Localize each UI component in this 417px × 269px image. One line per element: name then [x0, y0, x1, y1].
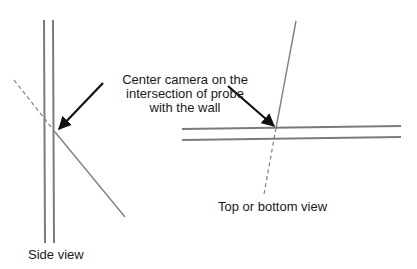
side-view-group: [14, 20, 125, 243]
top-view-wall-lower: [182, 137, 401, 140]
callout-line-2: intersection of probe: [104, 87, 266, 101]
side-view-probe-hidden: [14, 80, 55, 132]
probe-alignment-diagram: [0, 0, 417, 269]
top-view-wall-upper: [182, 126, 401, 129]
side-view-probe: [55, 132, 125, 217]
callout-line-1: Center camera on the: [104, 73, 266, 87]
side-view-label: Side view: [28, 248, 84, 262]
top-view-probe: [276, 21, 296, 128]
top-view-label: Top or bottom view: [218, 200, 327, 214]
callout-line-3: with the wall: [104, 101, 266, 115]
side-view-wall-left: [44, 20, 45, 243]
callout-text: Center camera on the intersection of pro…: [104, 73, 266, 115]
side-view-callout-arrow: [59, 83, 103, 129]
